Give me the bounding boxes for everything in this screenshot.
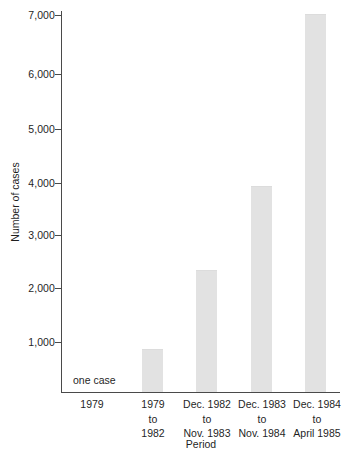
y-tick-mark-2000 <box>55 288 62 289</box>
y-axis-line <box>61 11 62 392</box>
y-tick-label-5000: 5,000 <box>7 124 55 134</box>
bar-chart: 7,000 6,000 5,000 4,000 3,000 2,000 1,00… <box>0 0 355 457</box>
y-axis-title: Number of cases <box>9 142 21 262</box>
bar-dec-1983-to-nov-1984 <box>251 186 272 392</box>
y-tick-label-1000: 1,000 <box>7 337 55 347</box>
x-label-line: to <box>284 412 350 427</box>
x-label-line: Dec. 1984 <box>284 397 350 412</box>
x-axis-title-text: Period <box>186 438 216 450</box>
x-label-line: 1979 <box>61 397 123 412</box>
x-label-line: April 1985 <box>284 426 350 441</box>
y-tick-mark-5000 <box>55 129 62 130</box>
x-axis-line <box>61 392 340 393</box>
x-label-dec-1984-to-april-1985: Dec. 1984 to April 1985 <box>284 397 350 441</box>
y-tick-label-7000: 7,000 <box>7 10 55 20</box>
y-tick-mark-4000 <box>55 183 62 184</box>
bar-dec-1982-to-nov-1983 <box>196 270 217 392</box>
y-tick-label-6000: 6,000 <box>7 69 55 79</box>
y-tick-label-2000: 2,000 <box>7 283 55 293</box>
annotation-one-case: one case <box>73 375 116 386</box>
y-tick-mark-6000 <box>55 74 62 75</box>
y-axis-title-text: Number of cases <box>9 162 21 241</box>
y-tick-mark-7000 <box>55 15 62 16</box>
y-tick-mark-3000 <box>55 235 62 236</box>
y-tick-mark-1000 <box>55 342 62 343</box>
x-axis-title: Period <box>121 438 281 450</box>
bar-1979-to-1982 <box>142 349 163 392</box>
x-label-1979: 1979 <box>61 397 123 412</box>
bar-dec-1984-to-april-1985 <box>305 14 326 392</box>
